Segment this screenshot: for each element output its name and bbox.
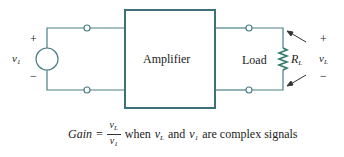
gain-formula: Gain = vL v1 when vL and v1 are complex …	[68, 119, 297, 150]
source-plus-label: +	[30, 32, 37, 47]
var1-subscript: L	[160, 134, 164, 142]
denominator-subscript: 1	[114, 140, 118, 148]
var2-subscript: 1	[195, 134, 199, 142]
arrow-bottom-icon	[287, 81, 293, 86]
source-minus-label: −	[30, 69, 37, 84]
fraction-numerator: vL	[110, 119, 118, 134]
voltage-source-icon	[36, 48, 58, 70]
output-voltage-label: vL	[319, 52, 328, 66]
equals-sign: =	[96, 127, 103, 142]
input-terminal-top	[84, 25, 90, 31]
input-circuit	[36, 25, 125, 93]
output-terminal-top	[246, 25, 252, 31]
resistor-subscript: L	[298, 59, 302, 67]
and-text: and	[168, 127, 185, 142]
amplifier-label: Amplifier	[143, 52, 190, 67]
gain-fraction: vL v1	[107, 119, 121, 150]
output-voltage-subscript: L	[324, 58, 328, 66]
resistor-label: RL	[291, 52, 302, 67]
numerator-subscript: L	[114, 124, 118, 132]
formula-var1: vL	[155, 127, 164, 142]
output-plus-label: +	[320, 32, 327, 47]
load-label: Load	[242, 53, 267, 68]
when-text: when	[125, 127, 151, 142]
gain-label: Gain	[68, 127, 92, 142]
resistor-icon	[279, 48, 287, 70]
output-minus-label: −	[320, 69, 327, 84]
source-voltage-label: v1	[12, 52, 20, 66]
formula-var2: v1	[189, 127, 198, 142]
output-terminal-bottom	[246, 87, 252, 93]
tail-text: are complex signals	[202, 127, 297, 142]
arrow-top-icon	[287, 31, 293, 36]
source-voltage-subscript: 1	[17, 58, 21, 66]
fraction-denominator: v1	[110, 135, 118, 150]
input-terminal-bottom	[84, 87, 90, 93]
